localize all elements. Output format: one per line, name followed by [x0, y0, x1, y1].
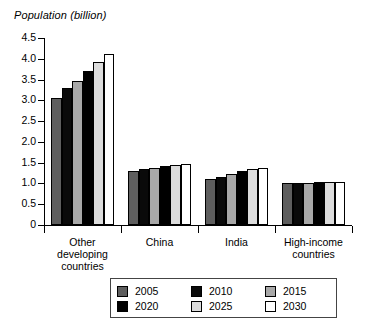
bar	[160, 166, 171, 225]
category-label-line: China	[121, 236, 198, 248]
category-label: India	[198, 236, 275, 248]
category-label: China	[121, 236, 198, 248]
bar	[149, 168, 160, 225]
bar	[205, 179, 216, 225]
bar	[314, 182, 325, 225]
legend-item: 2020	[117, 301, 191, 312]
y-axis-tick-label: 4.0	[21, 53, 36, 64]
y-axis-tick-label: 1.5	[21, 157, 36, 168]
category-label-line: Other	[44, 236, 121, 248]
legend-swatch	[191, 301, 202, 312]
bar	[324, 182, 335, 225]
bar	[216, 177, 227, 225]
x-axis-end-tick	[44, 226, 45, 233]
bar	[226, 174, 237, 225]
bar	[282, 183, 293, 225]
x-axis-separator-tick	[275, 226, 276, 233]
bar	[62, 88, 73, 225]
bar	[170, 165, 181, 225]
legend-swatch	[265, 301, 276, 312]
bar	[258, 168, 269, 225]
legend-label: 2010	[209, 286, 232, 297]
category-label-line: countries	[44, 260, 121, 272]
bar	[335, 182, 346, 225]
x-axis-separator-tick	[121, 226, 122, 233]
legend-item: 2015	[265, 286, 333, 297]
x-axis-end-tick	[352, 226, 353, 233]
bar	[51, 98, 62, 225]
chart-legend: 200520102015202020252030	[110, 278, 337, 318]
legend-swatch	[117, 286, 128, 297]
legend-item: 2010	[191, 286, 265, 297]
category-label: High-incomecountries	[275, 236, 352, 260]
legend-label: 2015	[283, 286, 306, 297]
bar	[139, 169, 150, 225]
legend-grid: 200520102015202020252030	[117, 284, 333, 314]
bar	[93, 62, 104, 225]
y-axis-tick-label: 1.0	[21, 177, 36, 188]
y-axis-tick-label: 2.5	[21, 115, 36, 126]
bar	[293, 183, 304, 225]
legend-swatch	[191, 286, 202, 297]
category-label: Otherdevelopingcountries	[44, 236, 121, 272]
bar	[303, 183, 314, 225]
bar	[181, 164, 192, 226]
legend-swatch	[265, 286, 276, 297]
y-axis-tick-label: 4.5	[21, 32, 36, 43]
y-axis-tick-label: 0	[30, 219, 36, 230]
category-label-line: India	[198, 236, 275, 248]
category-label-line: countries	[275, 248, 352, 260]
bar	[83, 71, 94, 225]
legend-item: 2005	[117, 286, 191, 297]
legend-label: 2030	[283, 301, 306, 312]
bar	[72, 81, 83, 225]
category-label-line: developing	[44, 248, 121, 260]
y-axis-tick-label: 2.0	[21, 136, 36, 147]
y-axis-title: Population (billion)	[14, 9, 107, 21]
bar	[128, 171, 139, 225]
bar	[237, 171, 248, 225]
plot-area	[44, 38, 352, 225]
legend-swatch	[117, 301, 128, 312]
category-label-line: High-income	[275, 236, 352, 248]
legend-label: 2025	[209, 301, 232, 312]
legend-label: 2005	[135, 286, 158, 297]
x-axis-separator-tick	[198, 226, 199, 233]
bar	[247, 169, 258, 225]
y-axis-tick-label: 3.0	[21, 94, 36, 105]
y-axis-tick-label: 3.5	[21, 74, 36, 85]
bar	[104, 54, 115, 225]
y-axis-tick-label: 0.5	[21, 198, 36, 209]
legend-label: 2020	[135, 301, 158, 312]
bar-chart-figure: Population (billion) 00.51.01.52.02.53.0…	[0, 0, 366, 328]
legend-item: 2030	[265, 301, 333, 312]
legend-item: 2025	[191, 301, 265, 312]
